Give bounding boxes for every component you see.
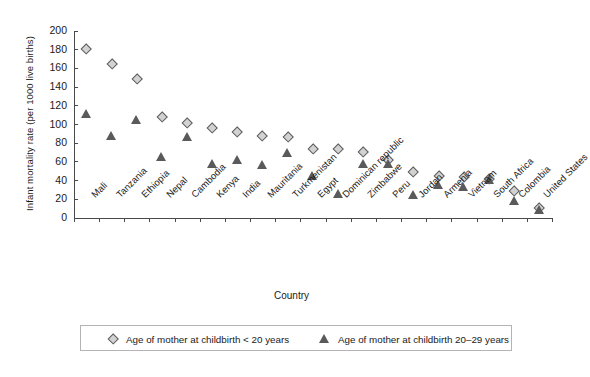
x-tick-mark [477,218,478,222]
y-tick-label: 100 [49,118,67,130]
y-tick-mark [74,31,78,32]
data-point [282,148,292,157]
data-point [232,155,242,164]
data-point [81,43,93,55]
data-point [131,74,143,86]
x-axis-line [74,218,552,219]
x-tick-mark [300,218,301,222]
x-tick-mark [74,218,75,222]
y-axis-title: Infant mortality rate (per 1000 live bir… [24,19,35,229]
x-tick-mark [426,218,427,222]
x-tick-mark [502,218,503,222]
y-tick-mark [74,161,78,162]
data-point [534,205,544,214]
x-tick-mark [124,218,125,222]
x-tick-mark [351,218,352,222]
data-point [232,126,244,138]
x-tick-mark [401,218,402,222]
data-point [182,132,192,141]
data-point [408,166,420,178]
data-point [307,143,319,155]
y-tick-label: 20 [55,192,67,204]
y-tick-label: 180 [49,43,67,55]
data-point [357,147,369,159]
y-tick-label: 120 [49,99,67,111]
data-point [156,152,166,161]
legend-entry-under-20: Age of mother at childbirth < 20 years [107,326,289,352]
data-point [106,131,116,140]
x-tick-mark [175,218,176,222]
data-point [106,58,118,70]
data-point [257,160,267,169]
data-point [282,132,294,144]
y-tick-mark [74,180,78,181]
y-tick-mark [74,87,78,88]
triangle-marker-icon [319,333,331,345]
x-tick-mark [326,218,327,222]
x-tick-mark [552,218,553,222]
data-point [181,118,193,130]
x-axis-title: Country [0,290,583,301]
y-tick-mark [74,49,78,50]
x-tick-mark [376,218,377,222]
y-tick-mark [74,199,78,200]
chart-legend: Age of mother at childbirth < 20 years A… [80,325,512,351]
x-tick-mark [451,218,452,222]
y-tick-label: 60 [55,155,67,167]
y-tick-label: 160 [49,61,67,73]
x-tick-mark [527,218,528,222]
x-tick-mark [275,218,276,222]
diamond-marker-icon [107,333,119,345]
y-tick-label: 200 [49,24,67,36]
data-point [131,115,141,124]
x-tick-mark [99,218,100,222]
y-tick-mark [74,124,78,125]
y-tick-mark [74,105,78,106]
y-tick-mark [74,143,78,144]
legend-entry-20-29: Age of mother at childbirth 20–29 years [319,326,509,352]
legend-label-under-20: Age of mother at childbirth < 20 years [126,334,289,345]
x-tick-mark [200,218,201,222]
x-tick-mark [250,218,251,222]
data-point [206,122,218,134]
y-tick-mark [74,68,78,69]
data-point [509,196,519,205]
data-point [332,143,344,155]
data-point [156,111,168,123]
y-tick-label: 80 [55,136,67,148]
y-tick-label: 140 [49,80,67,92]
y-tick-label: 0 [61,211,67,223]
data-point [81,109,91,118]
legend-label-20-29: Age of mother at childbirth 20–29 years [338,334,509,345]
x-tick-mark [225,218,226,222]
y-tick-label: 40 [55,174,67,186]
data-point [257,131,269,143]
x-tick-mark [149,218,150,222]
